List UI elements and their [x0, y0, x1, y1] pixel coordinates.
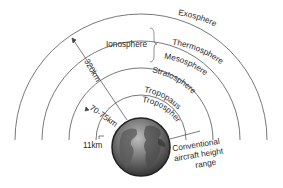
atmosphere-diagram: Exosphere Thermosphere Mesosphere Strato…	[0, 0, 283, 188]
label-ionosphere: Ionosphere	[106, 40, 147, 49]
earth-globe-icon	[112, 118, 170, 176]
diagram-canvas: Exosphere Thermosphere Mesosphere Strato…	[0, 0, 283, 188]
height-arrow-320km	[72, 38, 76, 43]
label-320km: 320km	[82, 58, 102, 84]
label-aircraft-range: Conventional aircraft height range	[172, 136, 226, 173]
svg-text:range: range	[195, 158, 218, 170]
label-70-75km: 70-75km	[88, 103, 119, 129]
label-tropopause: Tropopause	[0, 0, 183, 111]
label-exosphere: Exosphere	[178, 8, 219, 29]
height-marker-11km	[99, 136, 104, 139]
label-11km: 11km	[83, 141, 103, 150]
ionosphere-brace	[150, 28, 157, 62]
